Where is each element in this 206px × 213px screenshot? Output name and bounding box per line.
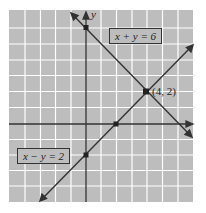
point-label-intersection: (4, 2) bbox=[152, 85, 176, 97]
y-axis-label: y bbox=[91, 8, 96, 20]
equation-label-x-minus-y: x − y = 2 bbox=[17, 148, 70, 164]
point-4-2 bbox=[143, 89, 149, 95]
equation-label-x-plus-y: x + y = 6 bbox=[109, 28, 162, 44]
coordinate-graph bbox=[0, 0, 206, 213]
point-0-6 bbox=[84, 25, 89, 30]
point-2-0 bbox=[114, 122, 119, 127]
point-0-neg2 bbox=[84, 153, 89, 158]
